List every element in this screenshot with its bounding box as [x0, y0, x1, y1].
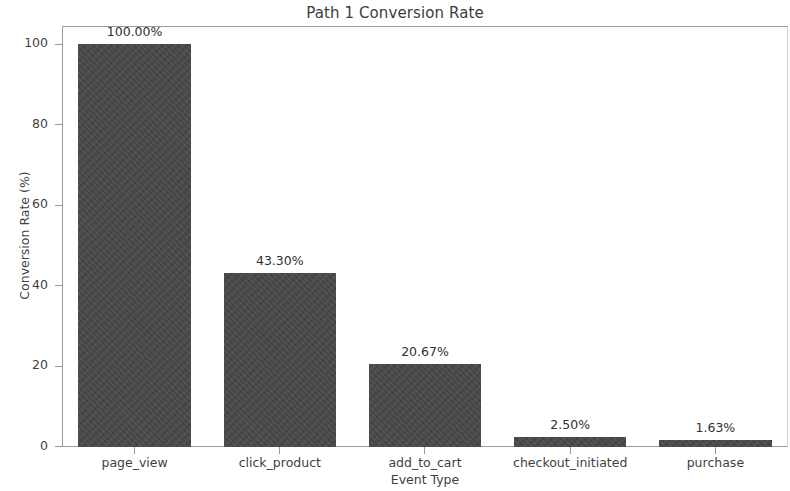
x-tick-label: page_view: [55, 457, 215, 470]
y-tick-mark: [55, 285, 62, 286]
y-tick-label: 20: [32, 359, 48, 372]
y-tick-label: 0: [40, 440, 48, 453]
x-tick-label: checkout_initiated: [490, 457, 650, 470]
x-tick-mark: [134, 447, 135, 454]
conversion-rate-bar-chart: Path 1 Conversion Rate 020406080100 Conv…: [0, 0, 790, 491]
x-axis-title: Event Type: [62, 472, 788, 487]
x-tick-label: add_to_cart: [345, 457, 505, 470]
y-tick-mark: [55, 124, 62, 125]
chart-title: Path 1 Conversion Rate: [0, 4, 790, 22]
y-tick-label: 40: [32, 279, 48, 292]
y-axis-title: Conversion Rate (%): [17, 116, 32, 356]
x-tick-label: purchase: [635, 457, 790, 470]
y-tick-mark: [55, 446, 62, 447]
x-tick-mark: [570, 447, 571, 454]
plot-area: [62, 26, 788, 447]
x-tick-label: click_product: [200, 457, 360, 470]
y-tick-label: 80: [32, 118, 48, 131]
y-tick-mark: [55, 366, 62, 367]
x-tick-mark: [279, 447, 280, 454]
y-tick-mark: [55, 205, 62, 206]
x-tick-mark: [715, 447, 716, 454]
x-tick-mark: [424, 447, 425, 454]
y-tick-label: 60: [32, 198, 48, 211]
y-tick-label: 100: [24, 37, 48, 50]
y-tick-mark: [55, 44, 62, 45]
